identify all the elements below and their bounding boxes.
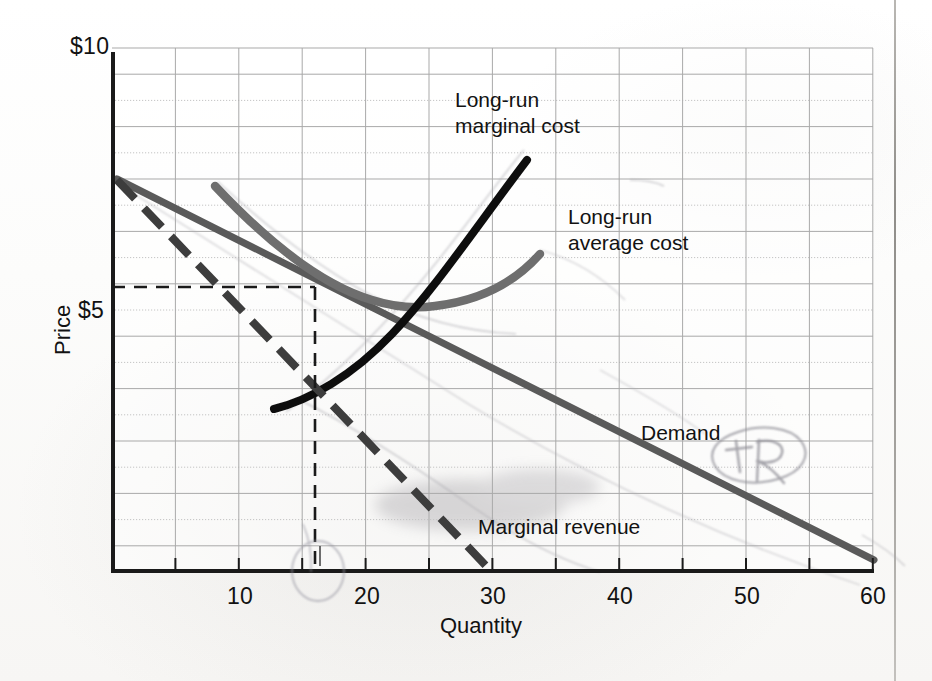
x-tick-label-30: 30 xyxy=(480,583,506,610)
marginal-revenue-label: Marginal revenue xyxy=(478,515,640,539)
y-tick-label-5: $5 xyxy=(78,297,104,324)
y-axis-title: Price xyxy=(50,305,76,355)
figure-page: $10 $5 Price 10 20 30 40 50 60 Quantity … xyxy=(0,0,932,681)
lrmc-label-line1: Long-run xyxy=(455,88,539,112)
lrmc-label-line2: marginal cost xyxy=(455,114,580,138)
lrac-label-line2: average cost xyxy=(568,231,688,255)
lrac-label-line1: Long-run xyxy=(568,205,652,229)
demand-label: Demand xyxy=(641,421,720,445)
x-tick-label-40: 40 xyxy=(607,583,633,610)
x-axis-title: Quantity xyxy=(440,613,522,639)
x-tick-label-50: 50 xyxy=(734,583,760,610)
x-tick-label-60: 60 xyxy=(860,583,886,610)
y-tick-label-10: $10 xyxy=(70,33,109,60)
x-tick-label-20: 20 xyxy=(354,583,380,610)
x-tick-label-10: 10 xyxy=(227,583,253,610)
